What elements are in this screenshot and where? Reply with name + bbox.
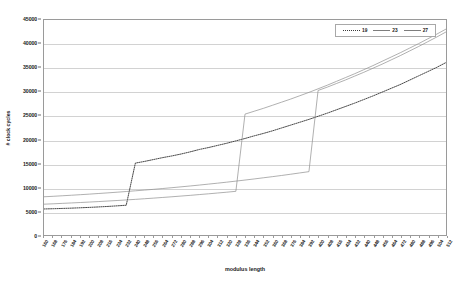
x-tick-mark bbox=[364, 236, 365, 238]
x-tick-label: 224 bbox=[115, 239, 123, 248]
x-tick-label: 376 bbox=[289, 239, 297, 248]
legend-swatch-27 bbox=[404, 30, 421, 31]
x-tick-label: 432 bbox=[354, 239, 362, 248]
x-tick-mark bbox=[227, 236, 228, 238]
x-tick-mark bbox=[80, 236, 81, 238]
y-tick-mark bbox=[38, 211, 41, 212]
x-tick-label: 296 bbox=[198, 239, 206, 248]
y-tick-mark bbox=[38, 91, 41, 92]
y-tick-label: 40000 bbox=[23, 40, 37, 46]
x-tick-mark bbox=[438, 236, 439, 238]
x-tick-mark bbox=[144, 236, 145, 238]
y-tick-mark bbox=[38, 115, 41, 116]
x-tick-mark bbox=[300, 236, 301, 238]
series-line-19 bbox=[44, 63, 446, 209]
x-tick-label: 272 bbox=[170, 239, 178, 248]
legend-entry-19[interactable]: 19 bbox=[343, 28, 367, 33]
x-tick-label: 288 bbox=[188, 239, 196, 248]
y-tick-label: 45000 bbox=[23, 16, 37, 22]
x-tick-label: 184 bbox=[69, 239, 77, 248]
x-axis-title: modulus length bbox=[43, 266, 447, 272]
x-tick-label: 456 bbox=[381, 239, 389, 248]
y-tick-mark bbox=[38, 139, 41, 140]
x-tick-label: 280 bbox=[179, 239, 187, 248]
y-tick-mark bbox=[38, 43, 41, 44]
x-tick-label: 496 bbox=[427, 239, 435, 248]
x-tick-label: 488 bbox=[418, 239, 426, 248]
x-tick-mark bbox=[318, 236, 319, 238]
x-tick-label: 192 bbox=[78, 239, 86, 248]
x-tick-mark bbox=[89, 236, 90, 238]
x-tick-label: 360 bbox=[271, 239, 279, 248]
x-tick-mark bbox=[328, 236, 329, 238]
x-tick-mark bbox=[447, 236, 448, 238]
x-tick-label: 416 bbox=[335, 239, 343, 248]
x-tick-label: 320 bbox=[225, 239, 233, 248]
x-tick-mark bbox=[116, 236, 117, 238]
x-tick-mark bbox=[135, 236, 136, 238]
x-tick-label: 232 bbox=[124, 239, 132, 248]
x-tick-label: 472 bbox=[400, 239, 408, 248]
x-tick-mark bbox=[401, 236, 402, 238]
x-tick-label: 208 bbox=[97, 239, 105, 248]
x-tick-label: 304 bbox=[207, 239, 215, 248]
x-tick-label: 264 bbox=[161, 239, 169, 248]
x-tick-label: 256 bbox=[152, 239, 160, 248]
x-tick-mark bbox=[429, 236, 430, 238]
x-tick-label: 368 bbox=[280, 239, 288, 248]
x-tick-mark bbox=[126, 236, 127, 238]
legend-swatch-23 bbox=[373, 30, 390, 31]
x-tick-mark bbox=[52, 236, 53, 238]
x-tick-label: 336 bbox=[244, 239, 252, 248]
y-tick-label: 10000 bbox=[23, 185, 37, 191]
x-tick-label: 400 bbox=[317, 239, 325, 248]
y-tick-mark bbox=[38, 236, 41, 237]
series-layer bbox=[44, 20, 446, 235]
x-tick-mark bbox=[263, 236, 264, 238]
x-tick-label: 216 bbox=[106, 239, 114, 248]
legend: 192327 bbox=[335, 24, 436, 37]
legend-label: 27 bbox=[423, 28, 428, 33]
x-tick-label: 344 bbox=[253, 239, 261, 248]
y-tick-label: 5000 bbox=[26, 209, 37, 215]
x-tick-mark bbox=[282, 236, 283, 238]
x-tick-label: 424 bbox=[345, 239, 353, 248]
x-tick-label: 392 bbox=[308, 239, 316, 248]
legend-entry-23[interactable]: 23 bbox=[373, 28, 397, 33]
x-tick-mark bbox=[383, 236, 384, 238]
x-tick-mark bbox=[61, 236, 62, 238]
x-tick-mark bbox=[190, 236, 191, 238]
x-tick-mark bbox=[309, 236, 310, 238]
x-tick-label: 176 bbox=[60, 239, 68, 248]
x-tick-mark bbox=[162, 236, 163, 238]
y-tick-mark bbox=[38, 163, 41, 164]
x-tick-mark bbox=[410, 236, 411, 238]
y-tick-label: 20000 bbox=[23, 137, 37, 143]
x-tick-mark bbox=[153, 236, 154, 238]
x-tick-mark bbox=[374, 236, 375, 238]
x-tick-mark bbox=[355, 236, 356, 238]
x-tick-mark bbox=[419, 236, 420, 238]
y-tick-label: 30000 bbox=[23, 88, 37, 94]
y-tick-mark bbox=[38, 67, 41, 68]
x-tick-mark bbox=[254, 236, 255, 238]
x-tick-label: 512 bbox=[446, 239, 454, 248]
x-tick-mark bbox=[71, 236, 72, 238]
x-tick-mark bbox=[172, 236, 173, 238]
y-tick-mark bbox=[38, 19, 41, 20]
x-tick-label: 448 bbox=[372, 239, 380, 248]
x-tick-label: 440 bbox=[363, 239, 371, 248]
legend-label: 19 bbox=[362, 28, 367, 33]
y-tick-label: 0 bbox=[34, 233, 37, 239]
x-tick-label: 240 bbox=[133, 239, 141, 248]
legend-entry-27[interactable]: 27 bbox=[404, 28, 428, 33]
legend-label: 23 bbox=[392, 28, 397, 33]
y-tick-label: 15000 bbox=[23, 161, 37, 167]
x-tick-label: 328 bbox=[234, 239, 242, 248]
x-tick-label: 312 bbox=[216, 239, 224, 248]
chart-container: # clock cycles 0500010000150002000025000… bbox=[0, 0, 469, 284]
x-tick-mark bbox=[208, 236, 209, 238]
x-tick-label: 248 bbox=[143, 239, 151, 248]
legend-swatch-19 bbox=[343, 30, 360, 31]
x-tick-mark bbox=[199, 236, 200, 238]
